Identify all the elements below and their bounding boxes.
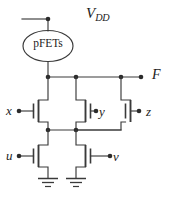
- vdd-rail-group: [22, 17, 50, 31]
- lower-drain-wires: [39, 130, 86, 145]
- vdd-node-dot: [46, 17, 51, 22]
- drain-wire-x: [39, 77, 49, 100]
- input-z-label: z: [146, 105, 151, 118]
- vdd-label: VDD: [86, 6, 110, 21]
- transistor-x: [17, 100, 48, 130]
- drain-wire-z: [121, 77, 131, 100]
- transistor-x-gate-dot: [17, 109, 22, 114]
- transistor-y-gate-dot: [94, 109, 99, 114]
- transistor-v-source-wire: [76, 167, 86, 178]
- ground-symbol-right: [66, 179, 86, 187]
- drain-wire-v: [76, 130, 86, 145]
- drain-wire-y: [76, 77, 86, 100]
- transistor-y: [76, 100, 98, 130]
- transistor-z-gate-dot: [137, 109, 142, 114]
- f-rail-group: [46, 75, 144, 80]
- vdd-label-main: V: [86, 5, 95, 21]
- circuit-schematic-svg: [0, 0, 173, 200]
- transistor-z-source-wire: [76, 122, 126, 130]
- input-v-label: v: [113, 150, 119, 163]
- output-f-label: F: [152, 68, 161, 82]
- transistor-v: [76, 145, 112, 178]
- f-terminal-dot: [139, 75, 144, 80]
- transistor-u: [17, 145, 48, 178]
- ground-symbol-left: [38, 179, 58, 187]
- transistor-v-gate-dot: [108, 154, 113, 159]
- upper-drain-wires: [39, 77, 131, 100]
- drain-wire-u: [39, 130, 49, 145]
- input-x-label: x: [6, 104, 12, 117]
- cmos-circuit-figure: VDD F pFETs x y z u v: [0, 0, 173, 200]
- vdd-label-subscript: DD: [95, 12, 109, 23]
- input-u-label: u: [6, 149, 13, 162]
- transistor-u-gate-dot: [17, 154, 22, 159]
- input-y-label: y: [99, 105, 105, 118]
- middle-rail-group: [46, 128, 121, 133]
- pfet-block-label: pFETs: [25, 38, 71, 50]
- transistor-u-source-wire: [39, 167, 49, 178]
